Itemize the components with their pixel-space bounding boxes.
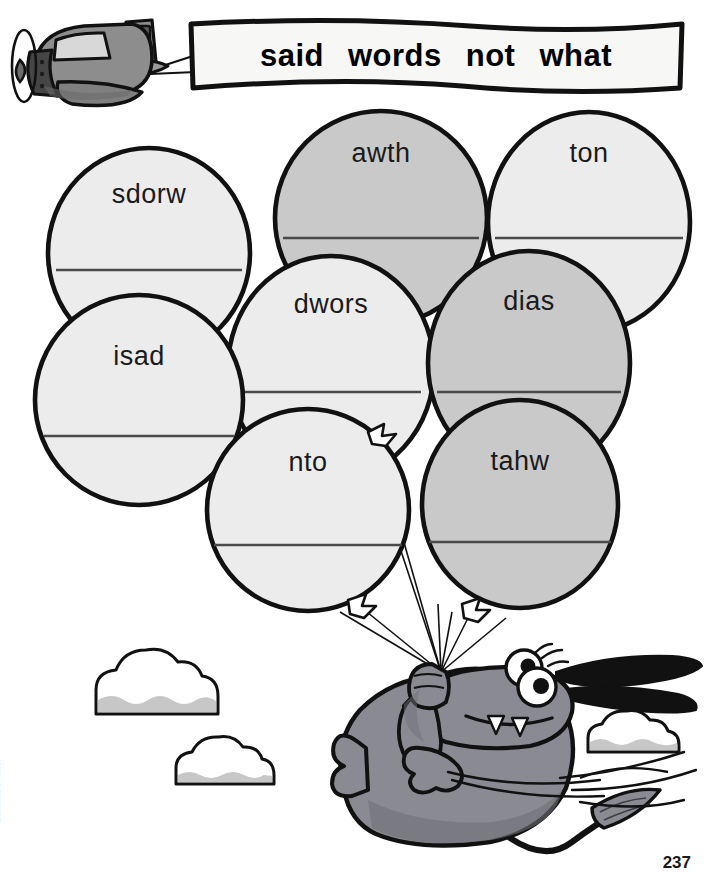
worksheet-artwork: sdorwawthtondworsdiasisadntotahw xyxy=(0,0,707,895)
balloon-scrambled-word: dias xyxy=(503,286,555,316)
airplane-icon xyxy=(12,20,196,106)
balloon-scrambled-word: dwors xyxy=(294,289,369,319)
worksheet-page: sdorwawthtondworsdiasisadntotahw xyxy=(0,0,707,895)
page-number: 237 xyxy=(663,853,691,873)
balloon-scrambled-word: isad xyxy=(113,341,165,371)
balloon-icon: tahw xyxy=(422,400,618,608)
banner-icon xyxy=(191,20,682,91)
balloon-scrambled-word: tahw xyxy=(490,446,549,476)
copyright-notice: © Scholastic Inc. xyxy=(0,759,2,833)
cloud-icon xyxy=(176,736,274,784)
balloon-group: sdorwawthtondworsdiasisadntotahw xyxy=(35,111,690,611)
cloud-icon xyxy=(96,649,218,714)
balloon-scrambled-word: sdorw xyxy=(112,179,187,209)
balloon-body xyxy=(422,400,618,608)
balloon-scrambled-word: ton xyxy=(569,138,608,168)
balloon-scrambled-word: awth xyxy=(351,138,410,168)
balloon-scrambled-word: nto xyxy=(288,447,327,477)
